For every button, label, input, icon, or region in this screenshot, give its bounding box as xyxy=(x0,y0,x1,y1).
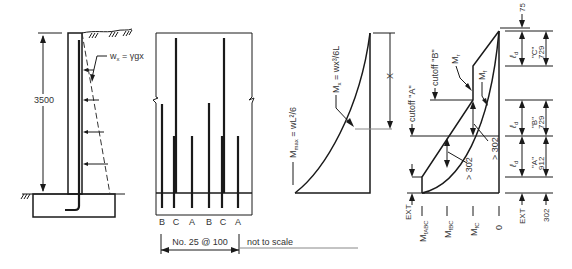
pressure-formula: wx = γgx xyxy=(109,51,144,62)
arrow-left-icon xyxy=(161,247,169,253)
retaining-wall-diagram: 3500 wx = γgx B C A B xyxy=(0,0,572,269)
bar-a-length: 912 xyxy=(537,156,546,170)
cutoff-b-label: cutoff "B" xyxy=(430,49,440,86)
x-label: X xyxy=(385,73,395,79)
ld-label-b: ℓd xyxy=(508,122,519,129)
mmax-formula: Mmax = wL²/6 xyxy=(288,107,299,158)
ld-label-a: ℓd xyxy=(508,161,519,168)
bar-label: C xyxy=(173,217,180,227)
cutoff-a-label: cutoff "A" xyxy=(407,85,417,122)
ext-dim-value: 302 xyxy=(542,208,551,222)
axis-label-mfbc: MfBC xyxy=(443,220,454,238)
arrow-down-icon xyxy=(409,128,415,136)
top-cover-label: 75 xyxy=(518,3,527,12)
arrow-right-icon xyxy=(231,247,239,253)
footing xyxy=(33,194,115,217)
bar-label: A xyxy=(235,217,241,227)
pressure-line xyxy=(82,33,110,194)
ld-label-c: ℓd xyxy=(508,52,519,59)
bar-label: B xyxy=(159,217,165,227)
arrow-down-icon xyxy=(432,92,438,100)
scale-note: not to scale xyxy=(247,237,293,247)
bar-b-length: 729 xyxy=(537,115,546,129)
gt302-label-b: > 302 xyxy=(490,137,500,160)
bar-c-length: 729 xyxy=(537,45,546,59)
arrow-down-icon xyxy=(40,184,46,192)
wall-rebar xyxy=(65,40,79,210)
axis-label-mfc: MfC xyxy=(469,222,480,236)
mr-label: Mr xyxy=(450,55,461,65)
gt302-label-a: > 302 xyxy=(464,157,474,180)
axis-label-mfabc: MfABC xyxy=(418,220,429,242)
ext-label: EXT xyxy=(404,204,413,220)
ext-dim-label: EXT xyxy=(518,208,527,224)
mx-formula: Mx = wx³/6L xyxy=(331,46,342,93)
bar-layout: B C A B C A No. 25 @ 100 not to scale xyxy=(153,33,358,254)
bar-label: A xyxy=(189,217,195,227)
mf-label: Mf xyxy=(477,71,488,81)
pressure-leader xyxy=(92,56,107,78)
arrow-down-icon xyxy=(387,121,393,129)
wall-section: 3500 wx = γgx xyxy=(21,29,144,217)
pressure-arrows xyxy=(83,68,108,166)
arrow-up-icon xyxy=(40,35,46,43)
base-hatch-icon xyxy=(21,194,30,199)
bar-label: C xyxy=(220,217,227,227)
moment-diagram: Mmax = wL²/6 Mx = wx³/6L X xyxy=(288,33,395,193)
wall-height-label: 3500 xyxy=(34,95,54,105)
axis-label-zero: 0 xyxy=(494,225,504,230)
ground-line xyxy=(82,29,132,33)
bar-spacing-label: No. 25 @ 100 xyxy=(172,237,228,247)
resistance-diagram: cutoff "A" cutoff "B" EXT Mr Mf > 302 > … xyxy=(404,31,504,242)
bar-label: B xyxy=(206,217,212,227)
development-lengths: 75 ℓd "C" 729 ℓd "B" 729 ℓd "A" 912 EXT … xyxy=(500,3,553,224)
